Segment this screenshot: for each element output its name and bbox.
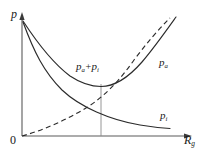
curve-label-sum-operator: + — [85, 61, 92, 72]
y-axis-label: p — [11, 8, 17, 20]
curve-pa — [22, 18, 170, 136]
y-axis-arrow-icon — [19, 12, 24, 20]
curve-label-sum-sub-2: i — [97, 66, 99, 73]
plot-canvas — [0, 0, 199, 158]
curve-label-sum: pa+pi — [76, 61, 99, 73]
y-axis-label-text: p — [11, 7, 17, 21]
curve-label-pa: pa — [159, 57, 168, 69]
curve-label-pi: pi — [160, 110, 167, 122]
x-axis-label: Rg — [184, 134, 195, 147]
curve-sum — [23, 17, 176, 87]
x-axis-label-subscript: g — [191, 139, 195, 148]
curve-pi — [23, 22, 170, 129]
curve-label-pa-subscript: a — [165, 62, 168, 69]
figure-container: p Rg 0 pa+pi pa pi — [0, 0, 199, 158]
origin-label: 0 — [10, 134, 16, 146]
curve-label-pi-subscript: i — [166, 115, 168, 122]
